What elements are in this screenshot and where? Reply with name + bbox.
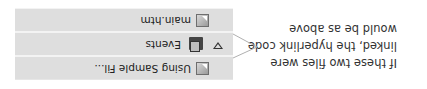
- tree-item-events[interactable]: Events: [15, 33, 233, 55]
- file-link-icon: [196, 62, 209, 75]
- tree-item-using-sample-files[interactable]: Using Sample Fil...: [15, 57, 233, 79]
- tree-item-main-htm[interactable]: main.htm: [15, 9, 233, 31]
- folder-icon: [189, 37, 203, 50]
- collapse-arrow-icon[interactable]: [213, 42, 223, 49]
- tree-item-label: main.htm: [140, 15, 191, 27]
- tree-item-label: Events: [145, 39, 181, 51]
- tree-item-label: Using Sample Fil...: [94, 63, 191, 75]
- file-tree-panel: Using Sample Fil... Events main.htm: [15, 8, 233, 80]
- file-link-icon: [196, 14, 209, 27]
- rotated-stage: If these two files were linked, the hype…: [0, 0, 427, 89]
